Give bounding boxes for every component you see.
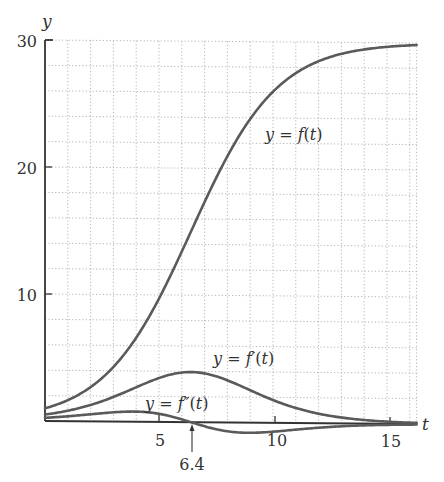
y-tick-label-10: 10	[17, 286, 37, 305]
curves	[45, 45, 417, 433]
arrow-head-icon	[190, 424, 195, 431]
grid-line-h	[45, 65, 417, 68]
grid-line-h	[45, 345, 417, 348]
label-f-prime: y = f′(t)	[212, 349, 274, 368]
grid-line-h	[45, 91, 417, 94]
y-axis-label: y	[41, 11, 52, 31]
grid-line-h	[45, 319, 417, 322]
grid-line-h	[45, 192, 417, 195]
grid-line-h	[45, 167, 417, 170]
label-f: y = f(t)	[264, 125, 322, 144]
label-f-double-prime: y = f″(t)	[144, 394, 208, 413]
annotation-label: 6.4	[179, 455, 204, 474]
x-tick-label-5: 5	[155, 431, 165, 450]
grid-line-h	[45, 396, 417, 399]
x-tick-label-10: 10	[267, 431, 287, 450]
y-tick-label-20: 20	[17, 159, 37, 178]
grid-line-h	[45, 116, 417, 119]
grid-line-h	[45, 294, 417, 297]
grid-line-h	[45, 370, 417, 373]
grid-line-h	[45, 269, 417, 272]
x-tick-label-15: 15	[381, 432, 401, 451]
grid-line-h	[45, 142, 417, 145]
grid-line-h	[45, 40, 417, 43]
y-tick-label-30: 30	[17, 32, 37, 51]
chart: y t 30 20 10 5 10 15 6.4 y = f(t) y = f′…	[0, 0, 444, 482]
grid-line-h	[45, 243, 417, 246]
x-axis	[45, 421, 417, 424]
grid-line-h	[45, 218, 417, 221]
ticks	[45, 167, 390, 424]
x-axis-label: t	[422, 414, 429, 434]
inflection-annotation: 6.4	[179, 424, 204, 474]
